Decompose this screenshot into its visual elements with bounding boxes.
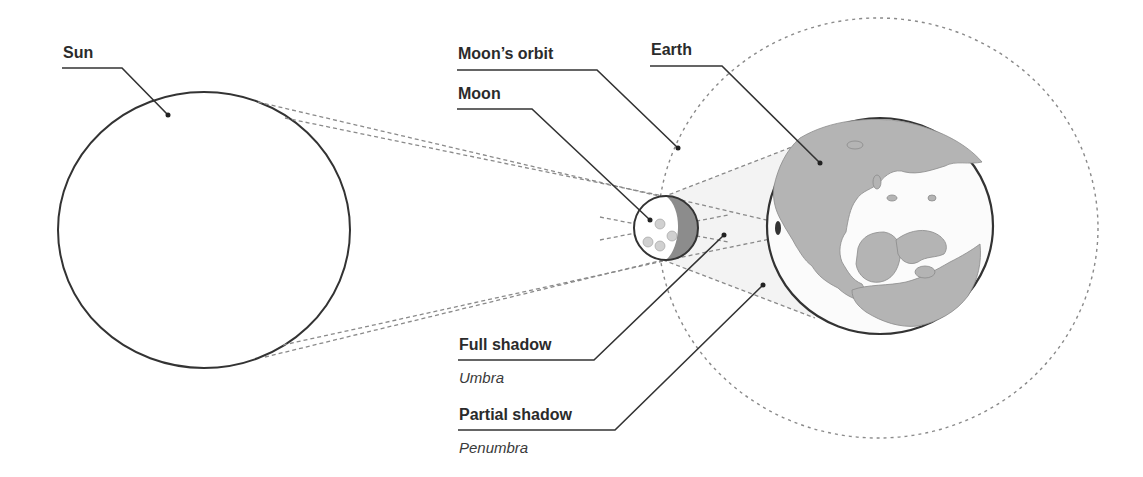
sun-body	[58, 92, 350, 368]
partial-shadow-leader-dot	[761, 283, 766, 288]
label-earth: Earth	[651, 41, 692, 58]
moon-leader-dot	[648, 218, 653, 223]
full-shadow-leader-dot	[722, 233, 727, 238]
earth-island	[847, 141, 863, 149]
earth-island	[873, 175, 881, 189]
earth-island	[928, 195, 936, 201]
orbit-leader-dot	[676, 146, 681, 151]
label-moon: Moon	[458, 85, 501, 102]
earth-leader-dot	[818, 161, 823, 166]
label-penumbra: Penumbra	[459, 439, 528, 456]
earth-body	[767, 118, 993, 334]
solar-eclipse-diagram: Sun Moon’s orbit Moon Earth Full shadow …	[0, 0, 1143, 477]
earth-shadow-spot	[775, 221, 781, 235]
label-full-shadow: Full shadow	[459, 336, 552, 353]
label-partial-shadow: Partial shadow	[459, 406, 572, 423]
sun-leader-dot	[166, 113, 171, 118]
moon-body	[634, 196, 698, 260]
earth-island	[915, 266, 935, 278]
moon-leader-line	[457, 109, 650, 220]
earth-island	[887, 195, 897, 201]
label-umbra: Umbra	[459, 369, 504, 386]
label-sun: Sun	[63, 44, 93, 61]
label-moons-orbit: Moon’s orbit	[458, 45, 554, 62]
